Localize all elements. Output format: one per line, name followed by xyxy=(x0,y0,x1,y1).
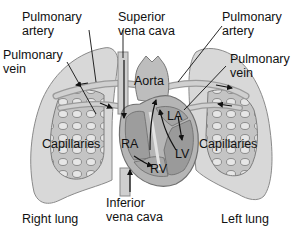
label-pulmonary-artery-left-side: Pulmonary artery xyxy=(222,10,282,38)
label-aorta: Aorta xyxy=(134,74,164,88)
label-left-atrium: LA xyxy=(167,109,182,123)
pulmonary-circulation-diagram: Pulmonary artery Pulmonary vein Superior… xyxy=(0,0,302,233)
label-right-ventricle: RV xyxy=(150,162,167,176)
label-left-ventricle: LV xyxy=(175,147,189,161)
label-line: vein xyxy=(230,66,290,80)
label-line: Superior xyxy=(118,10,175,24)
label-line: artery xyxy=(22,24,82,38)
label-line: vein xyxy=(3,62,63,76)
label-line: artery xyxy=(222,24,282,38)
label-line: Pulmonary xyxy=(222,10,282,24)
label-inferior-vena-cava: Inferior vena cava xyxy=(106,196,163,224)
label-pulmonary-artery-right-side: Pulmonary artery xyxy=(22,10,82,38)
label-capillaries-right-lung: Capillaries xyxy=(42,137,100,151)
label-right-atrium: RA xyxy=(121,137,138,151)
label-superior-vena-cava: Superior vena cava xyxy=(118,10,175,38)
label-line: Inferior xyxy=(106,196,163,210)
label-right-lung: Right lung xyxy=(22,212,78,226)
label-line: Pulmonary xyxy=(3,48,63,62)
label-line: vena cava xyxy=(118,24,175,38)
label-line: Pulmonary xyxy=(22,10,82,24)
label-capillaries-left-lung: Capillaries xyxy=(199,137,257,151)
label-line: vena cava xyxy=(106,210,163,224)
label-left-lung: Left lung xyxy=(221,212,269,226)
label-line: Pulmonary xyxy=(230,52,290,66)
label-pulmonary-vein-right-side: Pulmonary vein xyxy=(3,48,63,76)
label-pulmonary-vein-left-side: Pulmonary vein xyxy=(230,52,290,80)
